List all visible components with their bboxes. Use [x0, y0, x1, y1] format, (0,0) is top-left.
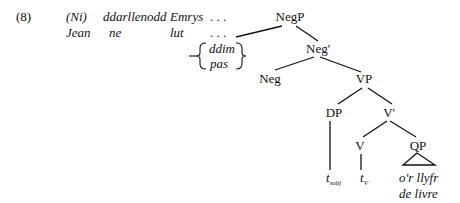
node-negp: NegP — [276, 10, 305, 24]
node-vp: VP — [356, 72, 373, 86]
gloss-french-neg: ne — [109, 26, 121, 40]
trace-subject: tsubj — [326, 171, 341, 190]
node-neg: Neg — [259, 72, 281, 86]
trace-verb-sub: V — [364, 179, 368, 187]
node-negbar: Neg' — [306, 42, 330, 56]
example-number: (8) — [16, 10, 31, 24]
gloss-french-ellipsis: . . . — [210, 26, 226, 40]
gloss-french-verb: lut — [170, 26, 184, 40]
object-welsh: o'r llyfr — [399, 171, 438, 185]
spec-option-pas: pas — [210, 57, 228, 71]
gloss-french-subject: Jean — [66, 26, 91, 40]
gloss-welsh-ellipsis: . . . — [210, 10, 226, 24]
gloss-welsh-ni: (Ni) — [66, 10, 87, 24]
trace-verb: tV — [360, 171, 368, 190]
spec-option-ddim: ddim — [209, 42, 235, 56]
trace-subject-sub: subj — [330, 179, 342, 187]
node-dp: DP — [326, 106, 343, 120]
node-v: V — [355, 139, 364, 153]
node-qp: QP — [410, 139, 427, 153]
gloss-welsh-subject: Emrys — [170, 10, 203, 24]
gloss-welsh-verb: ddarllenodd — [103, 10, 167, 24]
object-french: de livre — [399, 187, 438, 201]
node-vbar: V' — [383, 106, 395, 120]
